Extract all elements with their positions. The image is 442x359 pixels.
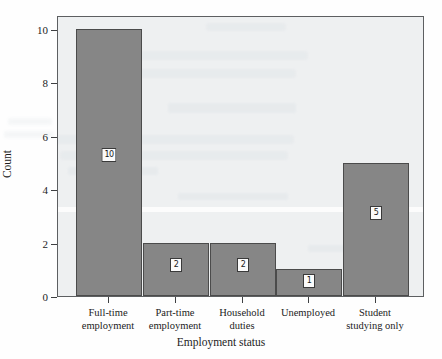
y-tick-label: 2: [43, 238, 49, 249]
x-tick-mark: [375, 297, 376, 303]
y-tick-label: 0: [43, 292, 49, 303]
bar-value-label: 5: [370, 206, 382, 220]
y-tick-label: 6: [43, 131, 49, 142]
x-tick-label-line1: Unemployed: [281, 306, 335, 319]
x-tick-label-line1: Student: [346, 306, 403, 319]
y-tick-label: 10: [37, 25, 48, 36]
bar-part-time-employment[interactable]: 2: [143, 243, 209, 296]
y-axis: 10 8 6 4 2 0: [0, 0, 57, 359]
y-tick-mark: [51, 297, 57, 298]
bar-unemployed[interactable]: 1: [276, 269, 342, 296]
x-tick-label-line2: studying only: [346, 319, 403, 332]
y-tick-label: 4: [43, 185, 49, 196]
bar-value-label: 1: [303, 274, 315, 288]
plot-area: 10 2 2 1 5: [57, 16, 424, 297]
x-tick-mark: [242, 297, 243, 303]
scan-bleed-artifact: [178, 193, 288, 200]
x-tick-label-unemployed: Unemployed: [281, 306, 335, 319]
x-tick-label-line2: duties: [219, 319, 265, 332]
x-axis-label: Employment status: [0, 336, 442, 348]
bar-value-label: 2: [170, 258, 182, 272]
x-tick-label-part-time-employment: Part-time employment: [149, 306, 202, 332]
x-tick-label-household-duties: Household duties: [219, 306, 265, 332]
y-tick-label: 8: [43, 78, 49, 89]
x-tick-mark: [175, 297, 176, 303]
scan-bleed-artifact: [168, 103, 296, 113]
scan-bleed-artifact: [136, 69, 296, 78]
x-tick-label-student-studying-only: Student studying only: [346, 306, 403, 332]
x-tick-mark: [308, 297, 309, 303]
x-tick-mark: [108, 297, 109, 303]
scan-bleed-artifact: [206, 23, 286, 31]
bar-full-time-employment[interactable]: 10: [76, 29, 142, 296]
bar-student-studying-only[interactable]: 5: [343, 163, 409, 297]
bar-chart-figure: 10 8 6 4 2 0 Count 10 2: [0, 0, 442, 359]
x-tick-label-line1: Household: [219, 306, 265, 319]
x-tick-label-line2: employment: [149, 319, 202, 332]
x-tick-label-full-time-employment: Full-time employment: [82, 306, 135, 332]
y-axis-label: Count: [1, 150, 13, 178]
x-tick-label-line2: employment: [82, 319, 135, 332]
bar-household-duties[interactable]: 2: [210, 243, 276, 296]
bar-value-label: 10: [101, 148, 116, 162]
x-tick-label-line1: Full-time: [82, 306, 135, 319]
x-tick-label-line1: Part-time: [149, 306, 202, 319]
bar-value-label: 2: [237, 258, 249, 272]
